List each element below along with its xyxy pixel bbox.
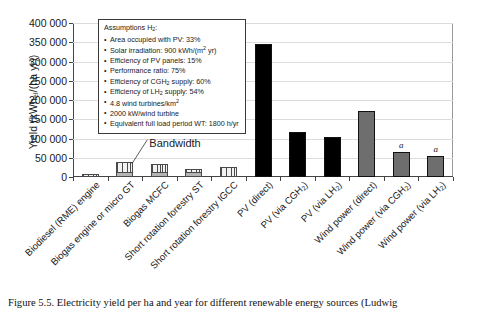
y-axis-tick-label: 400 000 <box>7 17 67 29</box>
assumption-item: Performance ratio: 75% <box>104 66 241 76</box>
assumption-item: 4.8 wind turbines/km2 <box>104 98 241 109</box>
assumption-item: Efficiency of LH2 supply: 54% <box>104 87 241 98</box>
y-axis-tick-label: 300 000 <box>7 56 67 68</box>
assumptions-heading: Assumptions H2: <box>104 23 241 34</box>
y-axis-tick-label: 50 000 <box>7 152 67 164</box>
x-axis-tick <box>453 177 454 181</box>
assumption-item: Area occupied with PV: 33% <box>104 35 241 45</box>
assumption-item: Equivalent full load period WT: 1800 h/y… <box>104 119 241 129</box>
y-axis-tick-label: 200 000 <box>7 94 67 106</box>
x-axis-category-label: Wind power (via LH2) <box>376 179 448 251</box>
y-axis-tick-label: 0 <box>7 171 67 183</box>
y-axis-tick-label: 250 000 <box>7 75 67 87</box>
y-axis-tick-label: 100 000 <box>7 133 67 145</box>
y-axis-tick-label: 150 000 <box>7 113 67 125</box>
x-axis-category-label: Wind power (direct) <box>312 179 379 246</box>
x-axis-category-labels: Biodiesel (RME) engineBiogas engine or m… <box>73 179 453 284</box>
assumption-item: Solar irradiation: 900 kWh/(m2 yr) <box>104 45 241 56</box>
figure-caption: Figure 5.5. Electricity yield per ha and… <box>8 296 474 309</box>
assumption-item: Efficiency of PV panels: 15% <box>104 56 241 66</box>
assumptions-box: Assumptions H2: Area occupied with PV: 3… <box>98 19 246 134</box>
assumptions-list: Area occupied with PV: 33%Solar irradiat… <box>104 35 241 129</box>
assumption-item: 2000 kW/wind turbine <box>104 109 241 119</box>
figure-5-5: Yield (kWhel/(ha yr)) 050 000100 000150 … <box>0 0 477 313</box>
assumption-item: Efficiency of CGH2 supply: 60% <box>104 77 241 88</box>
y-axis-tick-label: 350 000 <box>7 36 67 48</box>
